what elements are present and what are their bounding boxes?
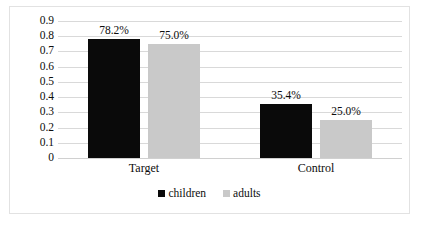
y-axis-tick-label: 0.3 bbox=[10, 107, 54, 119]
y-axis: 0.90.80.70.60.50.40.30.20.10 bbox=[10, 21, 54, 158]
y-axis-tick-label: 0.4 bbox=[10, 91, 54, 103]
plot-area: 78.2%75.0%35.4%25.0% bbox=[58, 21, 402, 158]
y-axis-tick-label: 0.5 bbox=[10, 76, 54, 88]
legend-swatch-icon bbox=[158, 190, 165, 197]
bar-children-control bbox=[260, 104, 312, 158]
chart-legend: childrenadults bbox=[10, 188, 409, 200]
bar-adults-control bbox=[320, 120, 372, 158]
x-axis: TargetControl bbox=[58, 162, 402, 180]
legend-label: children bbox=[168, 188, 206, 200]
y-axis-tick-label: 0 bbox=[10, 152, 54, 164]
legend-entry-adults[interactable]: adults bbox=[223, 188, 260, 200]
chart-figure: 0.90.80.70.60.50.40.30.20.10 78.2%75.0%3… bbox=[9, 6, 410, 214]
x-axis-tick-label: Target bbox=[129, 162, 159, 174]
x-axis-tick-label: Control bbox=[298, 162, 335, 174]
bar-value-label: 25.0% bbox=[331, 106, 361, 118]
legend-entry-children[interactable]: children bbox=[158, 188, 206, 200]
y-axis-tick-label: 0.1 bbox=[10, 137, 54, 149]
bar-adults-target bbox=[148, 44, 200, 158]
y-axis-tick-label: 0.6 bbox=[10, 61, 54, 73]
y-axis-tick-label: 0.7 bbox=[10, 46, 54, 58]
y-axis-tick-label: 0.8 bbox=[10, 30, 54, 42]
legend-label: adults bbox=[233, 188, 260, 200]
gridline bbox=[58, 158, 402, 159]
bar-value-label: 78.2% bbox=[99, 25, 129, 37]
y-axis-tick-label: 0.2 bbox=[10, 122, 54, 134]
y-axis-tick-label: 0.9 bbox=[10, 15, 54, 27]
bar-value-label: 35.4% bbox=[271, 90, 301, 102]
legend-swatch-icon bbox=[223, 190, 230, 197]
bar-value-label: 75.0% bbox=[159, 30, 189, 42]
gridline bbox=[58, 21, 402, 22]
bar-children-target bbox=[88, 39, 140, 158]
